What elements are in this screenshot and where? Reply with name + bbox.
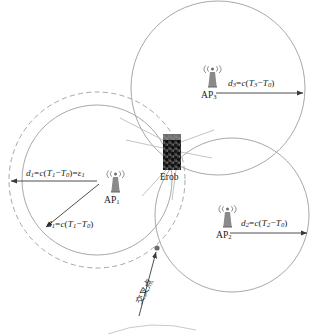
d1e-eps-sub: 1 bbox=[82, 171, 85, 178]
ap2-antenna-icon bbox=[219, 205, 236, 227]
ap1-range-circle bbox=[22, 105, 172, 255]
ap3-label: AP3 bbox=[201, 89, 217, 100]
d1-label: d1=c(T1−T0) bbox=[47, 219, 93, 229]
ap3-name: AP bbox=[201, 89, 213, 100]
rock-highlight bbox=[163, 134, 181, 140]
d3-close: ) bbox=[271, 78, 274, 88]
ap3-index: 3 bbox=[213, 93, 216, 100]
d1-error-label: d1=c(T1−T0)=ε1 bbox=[26, 168, 85, 178]
ap1-antenna-icon bbox=[107, 170, 124, 192]
ap3-range-circle bbox=[131, 1, 305, 175]
ap1-name: AP bbox=[104, 194, 116, 205]
figure-canvas: d1=c(T1−T0)=ε1 d1=c(T1−T0) d3=c(T3−T0) d… bbox=[0, 0, 314, 334]
d2-label: d2=c(T2−T0) bbox=[241, 218, 287, 228]
obstacle-label: Erob bbox=[160, 171, 179, 182]
ap1-index: 1 bbox=[116, 198, 119, 205]
ap3-antenna-icon bbox=[204, 65, 221, 87]
d1-close: ) bbox=[90, 219, 93, 229]
ap1-error-circle bbox=[9, 92, 185, 268]
intersection-point-marker bbox=[154, 245, 159, 250]
diagram-vector-layer bbox=[0, 0, 314, 334]
bottom-arc bbox=[108, 325, 196, 334]
ap2-label: AP2 bbox=[216, 229, 232, 240]
ap1-label: AP1 bbox=[104, 194, 120, 205]
ap2-name: AP bbox=[216, 229, 228, 240]
d2-close: ) bbox=[284, 218, 287, 228]
ap2-index: 2 bbox=[228, 233, 231, 240]
d3-label: d3=c(T3−T0) bbox=[228, 78, 274, 88]
